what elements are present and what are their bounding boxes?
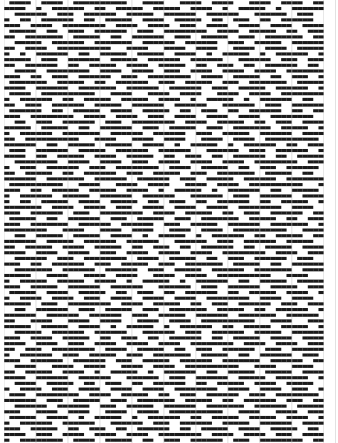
draft-svg (4, 0, 324, 443)
weave-draft-grid (4, 0, 324, 443)
page-edge-line (335, 0, 336, 443)
